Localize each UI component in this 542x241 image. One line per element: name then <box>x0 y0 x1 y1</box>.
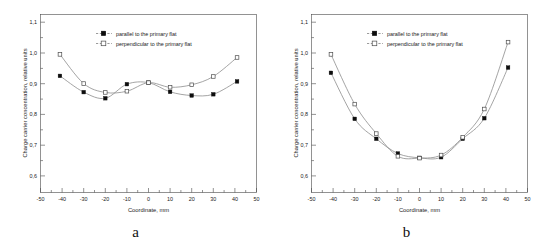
data-point-marker <box>329 53 333 57</box>
y-axis-tick-labels-b: 1,1 1,0 0,9 0,8 0,7 0,6 <box>301 19 309 179</box>
data-point-marker <box>82 90 86 94</box>
series-curve-perpendicular <box>331 42 508 159</box>
data-point-marker <box>104 96 108 100</box>
data-point-marker <box>82 82 86 86</box>
y-tick-label: 1,0 <box>30 50 38 56</box>
data-point-marker <box>125 82 129 86</box>
y-tick-label: 1,0 <box>301 50 309 56</box>
x-tick-label: 40 <box>503 196 509 202</box>
x-tick-label: 0 <box>147 196 150 202</box>
x-tick-label: 30 <box>210 196 216 202</box>
data-point-marker <box>147 81 151 85</box>
x-axis-tick-labels-b: -50 -40 -30 -20 -10 0 10 20 30 40 50 <box>308 196 531 202</box>
data-point-marker <box>104 91 108 95</box>
data-point-marker <box>375 137 379 141</box>
data-point-marker <box>190 94 194 98</box>
y-axis-ticks-b <box>312 22 317 176</box>
x-tick-label: 10 <box>167 196 173 202</box>
y-axis-ticks-a <box>41 22 46 176</box>
x-tick-label: 20 <box>460 196 466 202</box>
x-tick-label: 40 <box>232 196 238 202</box>
data-point-marker <box>125 89 129 93</box>
x-tick-label: -40 <box>329 196 337 202</box>
data-point-marker <box>168 85 172 89</box>
data-point-marker <box>375 132 379 136</box>
x-tick-label: -20 <box>372 196 380 202</box>
data-point-marker <box>168 90 172 94</box>
data-point-marker <box>506 40 510 44</box>
legend-b: parallel to the primary flat perpendicul… <box>367 31 463 47</box>
legend-a: parallel to the primary flat perpendicul… <box>96 31 192 47</box>
x-tick-label: 0 <box>418 196 421 202</box>
y-tick-label: 0,9 <box>30 81 38 87</box>
panel-caption-a: a <box>0 225 271 240</box>
y-axis-title-a: Charge carrier concentration, relative u… <box>22 48 28 157</box>
legend-label-parallel-a: parallel to the primary flat <box>116 31 177 37</box>
data-point-marker <box>418 156 422 160</box>
y-axis-tick-labels-a: 1,1 1,0 0,9 0,8 0,7 0,6 <box>30 19 38 179</box>
data-point-marker <box>396 154 400 158</box>
x-axis-ticks-b <box>312 188 528 193</box>
data-point-marker <box>506 66 510 70</box>
data-point-marker <box>461 135 465 139</box>
data-point-marker <box>235 56 239 60</box>
panel-caption-b: b <box>271 225 542 240</box>
data-point-marker <box>483 107 487 111</box>
data-point-marker <box>439 153 443 157</box>
chart-panel-a: Charge carrier concentration, relative u… <box>0 0 271 241</box>
legend-marker-perpendicular-a <box>101 41 106 46</box>
data-point-marker <box>212 75 216 79</box>
x-tick-label: -10 <box>123 196 131 202</box>
data-point-marker <box>58 53 62 57</box>
chart-panel-b: Charge carrier concentration, relative u… <box>271 0 542 241</box>
y-tick-label: 1,1 <box>30 19 38 25</box>
series-curve-parallel <box>60 76 237 99</box>
chart-b-svg: Charge carrier concentration, relative u… <box>271 0 542 224</box>
chart-a-svg: Charge carrier concentration, relative u… <box>0 0 271 224</box>
data-point-marker <box>483 116 487 120</box>
x-tick-label: -30 <box>80 196 88 202</box>
x-axis-tick-labels-a: -50 -40 -30 -20 -10 0 10 20 30 40 50 <box>37 196 260 202</box>
x-tick-label: -20 <box>101 196 109 202</box>
y-tick-label: 0,9 <box>301 81 309 87</box>
data-point-marker <box>58 74 62 78</box>
plot-data-a <box>58 53 239 100</box>
legend-marker-parallel-a <box>101 31 106 36</box>
x-tick-label: -30 <box>351 196 359 202</box>
series-curve-perpendicular <box>60 54 237 93</box>
data-point-marker <box>353 102 357 106</box>
y-axis-title-b: Charge carrier concentration, relative u… <box>293 48 299 157</box>
legend-marker-perpendicular-b <box>372 41 377 46</box>
y-tick-label: 0,7 <box>301 142 309 148</box>
y-tick-label: 0,6 <box>30 173 38 179</box>
y-tick-label: 0,8 <box>30 111 38 117</box>
series-curve-parallel <box>331 68 508 159</box>
x-axis-title-a: Coordinate, mm <box>128 207 169 213</box>
data-point-marker <box>353 117 357 121</box>
data-point-marker <box>212 92 216 96</box>
figure-two-panel-charts: Charge carrier concentration, relative u… <box>0 0 542 241</box>
legend-marker-parallel-b <box>372 31 377 36</box>
y-tick-label: 0,8 <box>301 111 309 117</box>
data-point-marker <box>329 71 333 75</box>
x-tick-label: 20 <box>189 196 195 202</box>
x-tick-label: -50 <box>37 196 45 202</box>
data-point-marker <box>190 83 194 87</box>
y-tick-label: 0,6 <box>301 173 309 179</box>
y-tick-label: 1,1 <box>301 19 309 25</box>
x-tick-label: 50 <box>254 196 260 202</box>
y-tick-label: 0,7 <box>30 142 38 148</box>
x-tick-label: -50 <box>308 196 316 202</box>
legend-label-perpendicular-a: perpendicular to the primary flat <box>116 41 192 47</box>
x-tick-label: -10 <box>394 196 402 202</box>
legend-label-parallel-b: parallel to the primary flat <box>387 31 448 37</box>
x-tick-label: -40 <box>58 196 66 202</box>
x-tick-label: 10 <box>438 196 444 202</box>
legend-label-perpendicular-b: perpendicular to the primary flat <box>387 41 463 47</box>
data-point-marker <box>235 80 239 84</box>
x-tick-label: 50 <box>525 196 531 202</box>
x-axis-title-b: Coordinate, mm <box>399 207 440 213</box>
plot-data-b <box>329 40 510 160</box>
x-tick-label: 30 <box>481 196 487 202</box>
x-axis-ticks-a <box>41 188 257 193</box>
